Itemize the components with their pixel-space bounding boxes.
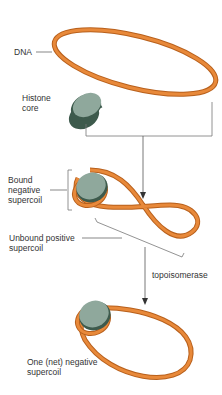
arrow-2-head	[142, 298, 148, 305]
relaxed-dna-loop	[48, 17, 222, 108]
dna-label: DNA	[14, 47, 32, 57]
unbound-positive-supercoil-label: Unbound positive supercoil	[9, 233, 75, 253]
dna-supercoiling-diagram: DNA Histone core Bound negative supercoi…	[0, 0, 222, 395]
histone-core-label: Histone core	[22, 93, 51, 113]
bound-negative-supercoil-label: Bound negative supercoil	[8, 175, 42, 205]
merge-bracket	[86, 102, 212, 136]
one-net-negative-supercoil-label: One (net) negative supercoil	[27, 357, 97, 377]
bound-bracket	[68, 170, 72, 210]
histone-core-disk	[64, 88, 106, 134]
unbound-bracket	[95, 218, 184, 257]
topoisomerase-label: topoisomerase	[152, 270, 208, 280]
